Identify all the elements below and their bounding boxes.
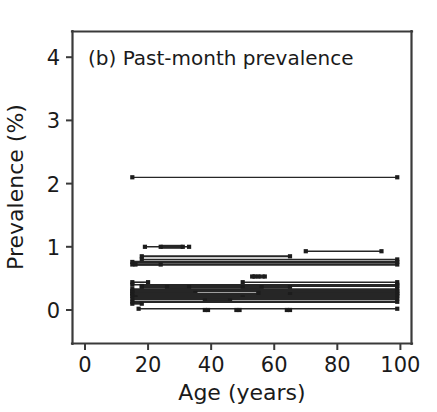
series-endpoint-marker <box>187 245 191 249</box>
x-tick-label: 80 <box>324 353 351 377</box>
y-tick-label: 4 <box>47 46 60 70</box>
data-series-group <box>130 175 399 312</box>
series-endpoint-marker <box>379 249 383 253</box>
y-tick-label: 3 <box>47 109 60 133</box>
series-endpoint-marker <box>137 307 141 311</box>
y-tick-label: 1 <box>47 236 60 260</box>
chart-figure: 01234 020406080100 (b) Past-month preval… <box>0 0 437 412</box>
series-endpoint-marker <box>133 262 137 266</box>
data-series-s10 <box>250 274 257 278</box>
series-endpoint-marker <box>237 308 241 312</box>
series-endpoint-marker <box>395 307 399 311</box>
x-tick-label: 20 <box>135 353 162 377</box>
y-axis-title: Prevalence (%) <box>3 104 28 270</box>
series-endpoint-marker <box>241 280 245 284</box>
x-tick-label: 0 <box>78 353 91 377</box>
series-endpoint-marker <box>130 283 134 287</box>
data-series-s33 <box>234 308 241 312</box>
series-endpoint-marker <box>288 308 292 312</box>
prevalence-scatter-chart: 01234 020406080100 (b) Past-month preval… <box>0 0 437 412</box>
series-endpoint-marker <box>263 274 267 278</box>
data-series-s34 <box>285 308 292 312</box>
series-endpoint-marker <box>256 274 260 278</box>
series-endpoint-marker <box>304 249 308 253</box>
series-endpoint-marker <box>206 308 210 312</box>
series-endpoint-marker <box>288 254 292 258</box>
x-tick-label: 40 <box>198 353 225 377</box>
series-endpoint-marker <box>130 302 134 306</box>
panel-title: (b) Past-month prevalence <box>88 46 354 70</box>
series-endpoint-marker <box>140 302 144 306</box>
data-series-s32 <box>203 308 210 312</box>
data-series-s04 <box>304 249 384 253</box>
series-endpoint-marker <box>181 245 185 249</box>
series-endpoint-marker <box>395 262 399 266</box>
data-series-s01 <box>130 175 399 179</box>
data-series-s27 <box>130 297 399 301</box>
y-tick-label: 0 <box>47 299 60 323</box>
series-endpoint-marker <box>130 175 134 179</box>
y-tick-label: 2 <box>47 173 60 197</box>
x-tick-label: 60 <box>261 353 288 377</box>
data-series-s13 <box>241 280 400 284</box>
series-endpoint-marker <box>143 245 147 249</box>
data-series-s03 <box>159 245 185 249</box>
x-axis-title: Age (years) <box>178 380 305 405</box>
series-endpoint-marker <box>395 300 399 304</box>
y-axis-ticks: 01234 <box>47 46 72 323</box>
data-series-s05 <box>140 254 292 258</box>
series-endpoint-marker <box>159 262 163 266</box>
x-axis-ticks: 020406080100 <box>78 344 420 377</box>
series-endpoint-marker <box>395 175 399 179</box>
series-endpoint-marker <box>159 245 163 249</box>
data-series-s11 <box>256 274 267 278</box>
x-tick-label: 100 <box>380 353 420 377</box>
data-series-s31 <box>137 307 400 311</box>
series-endpoint-marker <box>146 280 150 284</box>
